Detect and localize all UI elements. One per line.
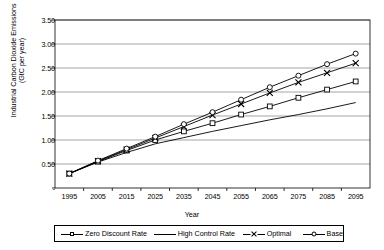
legend-item[interactable]: Optimal	[243, 229, 303, 239]
data-point-marker	[296, 73, 301, 78]
data-point-marker	[325, 62, 330, 67]
data-point-marker	[267, 85, 272, 90]
x-axis-title: Year	[0, 210, 384, 219]
legend-label: Zero Discount Rate	[85, 229, 147, 238]
legend-label: High Control Rate	[178, 229, 235, 238]
series-line	[69, 81, 355, 173]
data-point-marker	[210, 110, 215, 115]
data-point-marker	[239, 97, 244, 102]
chart-container: Industrial Carbon Dioxide Emissions (GtC…	[0, 0, 384, 250]
plot-border	[55, 20, 370, 188]
data-point-marker	[124, 146, 129, 151]
data-point-marker	[181, 129, 186, 134]
data-point-marker	[353, 79, 358, 84]
legend-marker-square-icon	[61, 229, 83, 239]
data-point-marker	[153, 134, 158, 139]
data-point-marker	[267, 104, 272, 109]
series-base	[67, 51, 358, 176]
legend-item[interactable]: High Control Rate	[154, 229, 243, 239]
data-point-marker	[181, 122, 186, 127]
data-point-marker	[325, 87, 330, 92]
data-point-marker	[210, 121, 215, 126]
chart-legend: Zero Discount RateHigh Control RateOptim…	[54, 225, 344, 242]
legend-label: Optimal	[267, 229, 292, 238]
legend-marker-circle-icon	[303, 229, 325, 239]
legend-item[interactable]: Base	[303, 229, 343, 239]
series-zero-discount-rate	[67, 79, 358, 176]
data-point-marker	[67, 171, 72, 176]
data-point-marker	[95, 158, 100, 163]
data-point-marker	[239, 112, 244, 117]
legend-marker-x-icon	[243, 229, 265, 239]
data-point-marker	[353, 51, 358, 56]
series-optimal	[66, 60, 358, 176]
data-point-marker	[296, 95, 301, 100]
legend-label: Base	[327, 229, 343, 238]
legend-item[interactable]: Zero Discount Rate	[61, 229, 154, 239]
legend-marker-none-icon	[154, 229, 176, 239]
